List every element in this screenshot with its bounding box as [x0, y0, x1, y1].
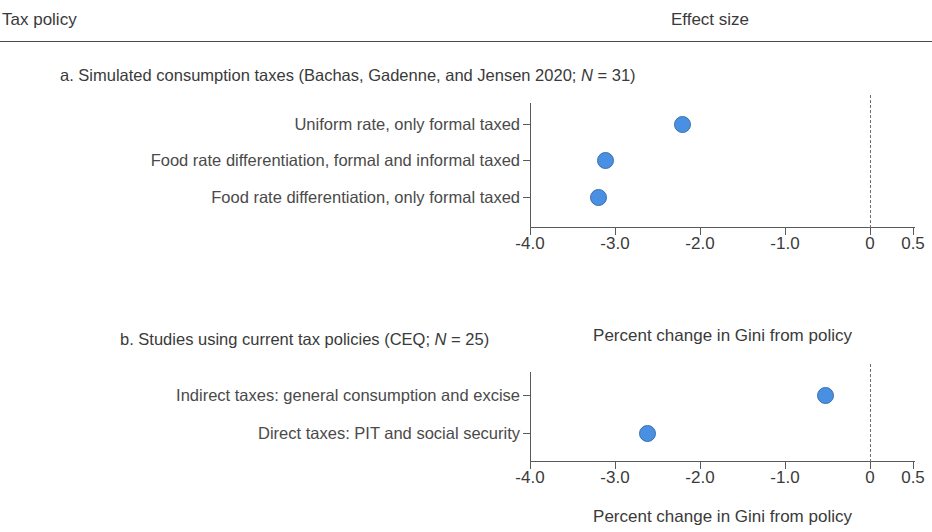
panel-b-x-ticklabel-2: -2.0	[685, 468, 714, 488]
panel-a-title-n: N	[581, 66, 593, 84]
panel-a-y-tick-1	[523, 160, 530, 161]
panel-b-title-n: N	[435, 330, 447, 348]
panel-a-x-ticklabel-3: -1.0	[770, 234, 799, 254]
panel-a-title: a. Simulated consumption taxes (Bachas, …	[60, 66, 860, 85]
row-label-a-1: Food rate differentiation, formal and in…	[0, 152, 520, 169]
column-header-effect-size: Effect size	[560, 10, 860, 30]
panel-b-title-prefix: b. Studies using current tax policies (C…	[120, 330, 435, 348]
column-header-tax-policy: Tax policy	[2, 10, 77, 30]
row-label-b-0: Indirect taxes: general consumption and …	[0, 387, 520, 404]
panel-b: b. Studies using current tax policies (C…	[0, 322, 932, 532]
row-label-b-1: Direct taxes: PIT and social security	[0, 425, 520, 442]
panel-b-title-suffix: = 25)	[446, 330, 489, 348]
panel-a-title-prefix: a. Simulated consumption taxes (Bachas, …	[60, 66, 581, 84]
panel-a-zero-reference-line	[870, 95, 871, 228]
panel-b-x-ticklabel-3: -1.0	[770, 468, 799, 488]
panel-a-x-ticklabel-0: -4.0	[515, 234, 544, 254]
panel-b-plot-area: -4.0 -3.0 -2.0 -1.0 0 0.5	[530, 372, 915, 462]
panel-b-x-ticklabel-0: -4.0	[515, 468, 544, 488]
panel-b-x-ticklabel-1: -3.0	[600, 468, 629, 488]
panel-b-y-tick-1	[523, 433, 530, 434]
panel-b-zero-reference-line	[870, 364, 871, 462]
panel-a-x-ticklabel-5: 0.5	[901, 234, 925, 254]
panel-b-x-ticklabel-5: 0.5	[901, 468, 925, 488]
panel-a-x-axis-spine	[530, 227, 915, 228]
data-point-b-1[interactable]	[639, 425, 656, 442]
panel-a-y-tick-0	[523, 124, 530, 125]
panel-b-y-tick-0	[523, 395, 530, 396]
figure-root: Tax policy Effect size a. Simulated cons…	[0, 0, 932, 532]
panel-b-y-axis-spine	[530, 372, 531, 462]
data-point-b-0[interactable]	[817, 387, 834, 404]
panel-b-title: b. Studies using current tax policies (C…	[120, 330, 920, 349]
header-divider	[0, 41, 932, 42]
panel-a-title-suffix: = 31)	[593, 66, 636, 84]
panel-a-x-ticklabel-2: -2.0	[685, 234, 714, 254]
row-label-a-0: Uniform rate, only formal taxed	[0, 116, 520, 133]
panel-b-x-axis-title: Percent change in Gini from policy	[530, 507, 915, 527]
data-point-a-1[interactable]	[597, 152, 614, 169]
panel-a-x-ticklabel-4: 0	[865, 234, 874, 254]
panel-b-x-ticklabel-4: 0	[865, 468, 874, 488]
panel-a-y-tick-2	[523, 197, 530, 198]
panel-b-x-axis-spine	[530, 461, 915, 462]
data-point-a-0[interactable]	[674, 116, 691, 133]
panel-a-y-axis-spine	[530, 103, 531, 228]
panel-a-x-ticklabel-1: -3.0	[600, 234, 629, 254]
row-label-a-2: Food rate differentiation, only formal t…	[0, 189, 520, 206]
data-point-a-2[interactable]	[590, 189, 607, 206]
panel-a-plot-area: -4.0 -3.0 -2.0 -1.0 0 0.5	[530, 103, 915, 228]
panel-a: a. Simulated consumption taxes (Bachas, …	[0, 58, 932, 298]
